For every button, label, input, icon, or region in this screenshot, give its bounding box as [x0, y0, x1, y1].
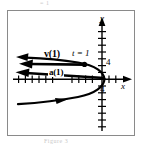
- x-axis-label: x: [121, 81, 125, 91]
- figure-caption-top: = 1: [40, 0, 49, 6]
- velocity-arrowhead-icon: [19, 60, 33, 69]
- y-axis-tick-label-4: 4: [106, 57, 111, 67]
- velocity-vector-shaft: [30, 64, 84, 65]
- figure-caption-bottom: Figure 3: [44, 138, 68, 144]
- acceleration-arrowhead-icon: [16, 68, 30, 77]
- x-axis-tick-label-4: 4: [100, 84, 105, 94]
- parameter-t-label: t = 1: [72, 48, 90, 58]
- plot-frame: y x 4 4 v(1) a(1) t = 1: [7, 10, 135, 136]
- parabola-upper-arrowhead-icon: [16, 53, 29, 61]
- y-axis-label: y: [100, 13, 104, 23]
- acceleration-vector-label: a(1): [48, 67, 64, 77]
- figure-container: = 1: [0, 0, 143, 147]
- plot-canvas: [8, 11, 134, 135]
- velocity-vector-label: v(1): [44, 48, 60, 59]
- t-equals-1-point-marker: [82, 62, 87, 67]
